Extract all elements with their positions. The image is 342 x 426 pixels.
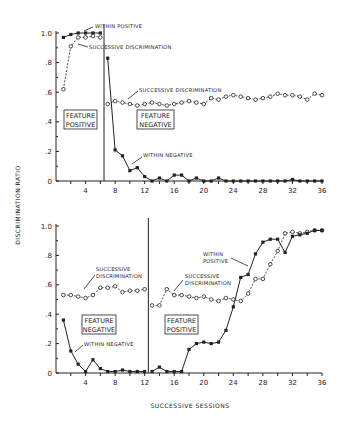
top-point-successive-discrimination — [268, 95, 272, 99]
bottom-point-successive-discrimination — [217, 299, 221, 303]
bottom-point-successive-discrimination — [84, 296, 88, 300]
top-point-within-negative — [143, 175, 146, 178]
bottom-x-tick-label: 8 — [113, 379, 117, 387]
bottom-axes: 0.2.4.6.81.04812162024283236 — [41, 218, 327, 387]
top-point-successive-discrimination — [320, 93, 324, 97]
bottom-point-successive-discrimination — [106, 286, 110, 290]
top-point-successive-discrimination — [261, 96, 265, 100]
top-arrow-within-negative — [132, 157, 142, 164]
top-point-successive-discrimination — [202, 102, 206, 106]
bottom-x-tick-label: 24 — [229, 379, 238, 387]
bottom-point-within-positive — [313, 229, 316, 232]
bottom-point-successive-discrimination — [135, 289, 139, 293]
bottom-point-within-positive — [254, 252, 257, 255]
top-point-within-negative — [165, 179, 168, 182]
bottom-x-tick-label: 16 — [170, 379, 179, 387]
bottom-point-within-positive — [187, 348, 190, 351]
bottom-point-successive-discrimination — [99, 286, 103, 290]
bottom-label-successive-1-l1: SUCCESSIVE — [96, 266, 131, 272]
top-x-tick-label: 24 — [229, 187, 238, 195]
top-x-tick-label: 8 — [113, 187, 117, 195]
top-series-line-successive-discrimination — [108, 94, 322, 106]
top-point-successive-discrimination — [150, 101, 154, 105]
bottom-point-successive-discrimination — [62, 293, 66, 297]
discrimination-ratio-figure: DISCRIMINATION RATIO SUCCESSIVE SESSIONS… — [0, 0, 342, 426]
top-phase-label-1: FEATURE — [66, 112, 95, 120]
top-point-within-negative — [136, 166, 139, 169]
bottom-point-successive-discrimination — [276, 249, 280, 253]
bottom-point-successive-discrimination — [187, 295, 191, 299]
top-point-successive-discrimination — [135, 104, 139, 108]
top-phase-label-2: POSITIVE — [66, 121, 96, 129]
bottom-point-within-negative — [128, 370, 131, 373]
top-point-within-negative — [254, 179, 257, 182]
bottom-point-within-positive — [195, 342, 198, 345]
top-y-tick-label: .8 — [45, 59, 52, 67]
bottom-point-successive-discrimination — [254, 277, 258, 281]
bottom-label-within-negative: WITHIN NEGATIVE — [84, 341, 134, 347]
top-point-within-negative — [232, 179, 235, 182]
top-point-successive-discrimination — [305, 98, 309, 102]
top-point-successive-discrimination — [158, 102, 162, 106]
bottom-point-successive-discrimination — [113, 284, 117, 288]
bottom-point-within-negative — [136, 370, 139, 373]
top-y-tick-label: .4 — [45, 118, 52, 126]
bottom-point-successive-discrimination — [246, 292, 250, 296]
top-point-successive-discrimination — [180, 101, 184, 105]
bottom-point-within-positive — [217, 341, 220, 344]
bottom-point-successive-discrimination — [209, 298, 213, 302]
bottom-point-successive-discrimination — [121, 290, 125, 294]
top-point-successive-discrimination — [298, 95, 302, 99]
bottom-point-successive-discrimination — [180, 293, 184, 297]
top-point-within-negative — [269, 179, 272, 182]
top-point-within-negative — [210, 179, 213, 182]
bottom-point-within-positive — [247, 273, 250, 276]
top-point-successive-discrimination — [143, 102, 147, 106]
bottom-point-successive-discrimination — [261, 277, 265, 281]
bottom-series-line-successive-discrimination — [63, 286, 144, 298]
bottom-point-within-negative — [121, 368, 124, 371]
top-x-tick-label: 36 — [318, 187, 327, 195]
bottom-x-tick-label: 4 — [83, 379, 88, 387]
top-point-successive-discrimination — [187, 99, 191, 103]
top-point-within-negative — [224, 179, 227, 182]
bottom-point-successive-discrimination — [202, 295, 206, 299]
top-point-successive-discrimination — [195, 101, 199, 105]
top-label-successive-discrimination-2: SUCCESSIVE DISCRIMINATION — [139, 87, 221, 93]
top-point-successive-discrimination — [254, 98, 258, 102]
bottom-series-line-within-positive — [152, 230, 322, 371]
bottom-point-successive-discrimination — [291, 230, 295, 234]
top-point-successive-discrimination — [313, 92, 317, 96]
top-y-tick-label: 1.0 — [41, 30, 52, 38]
bottom-arrow-successive-1 — [84, 275, 95, 289]
top-point-successive-discrimination — [224, 95, 228, 99]
top-y-tick-label: .6 — [45, 89, 52, 97]
top-point-within-negative — [187, 179, 190, 182]
top-x-tick-label: 20 — [199, 187, 208, 195]
bottom-point-successive-discrimination — [268, 262, 272, 266]
bottom-point-within-positive — [210, 342, 213, 345]
top-point-within-negative — [320, 179, 323, 182]
bottom-point-within-negative — [114, 370, 117, 373]
top-point-successive-discrimination — [91, 34, 95, 38]
top-point-successive-discrimination — [121, 101, 125, 105]
top-point-within-positive — [69, 33, 72, 36]
top-point-successive-discrimination — [276, 92, 280, 96]
top-point-successive-discrimination — [106, 102, 110, 106]
bottom-point-within-positive — [150, 370, 153, 373]
bottom-point-successive-discrimination — [239, 299, 243, 303]
bottom-point-within-positive — [298, 233, 301, 236]
bottom-label-successive-2-l2: DISCRIMINATION — [185, 280, 231, 286]
bottom-phase-label-1: FEATURE — [84, 317, 113, 325]
top-point-within-negative — [298, 179, 301, 182]
bottom-panel: 0.2.4.6.81.04812162024283236 SUCCESSIVE … — [41, 218, 327, 387]
bottom-point-within-positive — [276, 238, 279, 241]
bottom-x-tick-label: 20 — [199, 379, 208, 387]
bottom-point-within-negative — [62, 318, 65, 321]
bottom-x-tick-label: 36 — [318, 379, 327, 387]
top-series-line-within-negative — [108, 58, 322, 181]
top-label-within-positive: WITHIN POSITIVE — [95, 23, 142, 29]
top-point-within-negative — [150, 179, 153, 182]
top-point-within-negative — [202, 179, 205, 182]
bottom-point-within-negative — [91, 358, 94, 361]
